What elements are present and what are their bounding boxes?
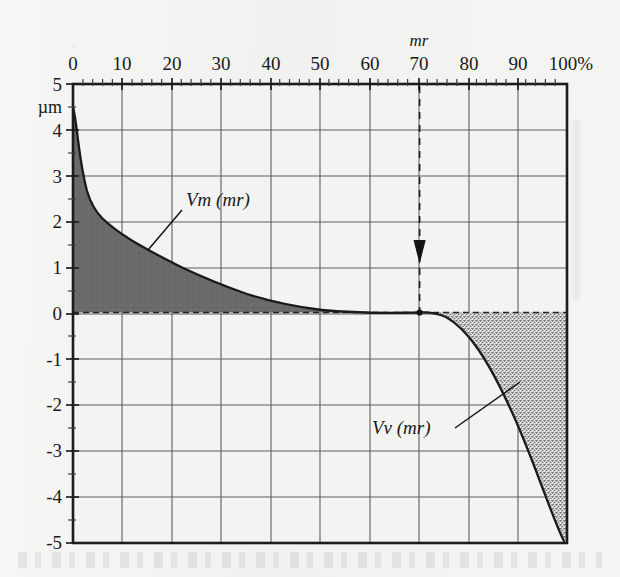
y-tick-label-neg2: -2 <box>46 394 62 415</box>
y-tick-label-0: 0 <box>53 303 63 324</box>
y-tick-label-1: 1 <box>53 257 63 278</box>
x-tick-label-0: 0 <box>68 53 78 74</box>
x-tick-label-30: 30 <box>212 53 231 74</box>
y-tick-label-4: 4 <box>53 120 63 141</box>
y-tick-label-2: 2 <box>53 211 63 232</box>
chart-svg: 0 10 20 30 40 50 60 70 80 90 100% mr 5 4… <box>0 0 620 577</box>
x-tick-label-80: 80 <box>460 53 479 74</box>
x-tick-label-40: 40 <box>262 53 281 74</box>
y-tick-label-neg1: -1 <box>46 349 62 370</box>
curve-crossing-point-marker <box>417 309 423 315</box>
material-ratio-chart: 0 10 20 30 40 50 60 70 80 90 100% mr 5 4… <box>0 0 620 577</box>
x-tick-label-60: 60 <box>361 53 380 74</box>
label-vv: Vv (mr) <box>372 417 431 439</box>
y-tick-label-3: 3 <box>53 166 63 187</box>
x-tick-label-10: 10 <box>113 53 132 74</box>
x-tick-label-50: 50 <box>311 53 330 74</box>
x-tick-label-70: 70 <box>410 53 429 74</box>
label-vm: Vm (mr) <box>186 189 250 211</box>
y-tick-label-neg4: -4 <box>46 486 62 507</box>
y-tick-label-5: 5 <box>53 74 63 95</box>
x-tick-label-90: 90 <box>509 53 528 74</box>
y-axis-unit-label: µm <box>38 97 62 117</box>
top-axis-title-mr: mr <box>410 31 429 50</box>
y-tick-label-neg5: -5 <box>46 532 62 553</box>
y-axis-tick-labels: 5 4 3 2 1 0 -1 -2 -3 -4 -5 <box>46 74 62 553</box>
x-tick-label-20: 20 <box>163 53 182 74</box>
x-tick-label-100: 100% <box>549 53 594 74</box>
x-axis-tick-labels: 0 10 20 30 40 50 60 70 80 90 100% <box>68 53 593 74</box>
y-tick-label-neg3: -3 <box>46 440 62 461</box>
